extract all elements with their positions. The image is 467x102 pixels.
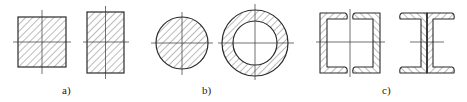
panel-a-label: a)	[62, 85, 71, 96]
panel-c-label: c)	[382, 85, 391, 96]
panel-a-rectangle-section	[83, 6, 129, 79]
panel-b-solid-circle-section	[151, 12, 213, 75]
panel-a-square-section	[13, 10, 71, 74]
panel-b-label: b)	[202, 85, 211, 96]
cross-section-figure: a) b) c)	[0, 0, 467, 102]
panel-b-ring-section	[218, 4, 294, 80]
panel-c-i-section-from-channels	[400, 13, 455, 73]
panel-c-double-channel-section	[316, 9, 385, 77]
